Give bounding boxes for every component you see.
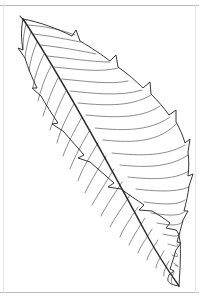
vein-upper-11 bbox=[103, 124, 176, 141]
vein-upper-16 bbox=[144, 200, 185, 204]
vein-upper-10 bbox=[95, 117, 170, 130]
vein-upper-5 bbox=[54, 67, 118, 70]
vein-upper-13 bbox=[120, 155, 188, 166]
vein-lower-17 bbox=[129, 218, 145, 245]
vein-upper-12 bbox=[112, 145, 185, 155]
leaf-lower-margin bbox=[18, 19, 180, 286]
vein-upper-7 bbox=[70, 90, 142, 94]
vein-lower-11 bbox=[78, 143, 98, 181]
vein-lower-16 bbox=[120, 207, 138, 237]
vein-upper-3 bbox=[40, 45, 96, 54]
vein-upper-15 bbox=[136, 187, 189, 191]
upper-vein-group bbox=[27, 25, 189, 267]
vein-upper-4 bbox=[47, 56, 110, 62]
vein-upper-9 bbox=[86, 106, 160, 117]
vein-lower-10 bbox=[70, 130, 90, 169]
vein-upper-22 bbox=[174, 263, 178, 267]
leaf-midrib bbox=[23, 19, 179, 286]
vein-lower-15 bbox=[110, 195, 130, 227]
vein-upper-14 bbox=[128, 171, 189, 179]
vein-lower-2 bbox=[25, 32, 31, 58]
vein-upper-6 bbox=[62, 79, 128, 83]
vein-upper-8 bbox=[78, 95, 151, 105]
vein-lower-6 bbox=[43, 78, 58, 116]
leaf-drawing bbox=[0, 0, 199, 306]
vein-lower-5 bbox=[38, 66, 51, 101]
vein-lower-3 bbox=[29, 42, 37, 71]
vein-lower-1 bbox=[23, 24, 26, 49]
vein-upper-20 bbox=[168, 244, 178, 246]
leaf-figure: Botanical line drawing of a single simpl… bbox=[0, 0, 199, 306]
vein-upper-19 bbox=[163, 233, 180, 236]
vein-lower-19 bbox=[147, 240, 158, 260]
